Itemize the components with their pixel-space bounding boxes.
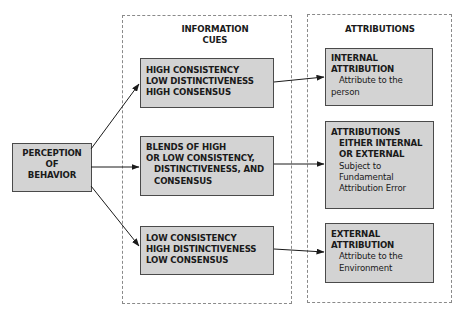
arrow-to-high-consistency <box>91 84 139 149</box>
arrows-layer <box>0 0 462 317</box>
arrow-to-external <box>274 249 324 252</box>
arrow-to-internal <box>274 77 324 82</box>
arrow-to-low-consistency <box>91 186 139 246</box>
